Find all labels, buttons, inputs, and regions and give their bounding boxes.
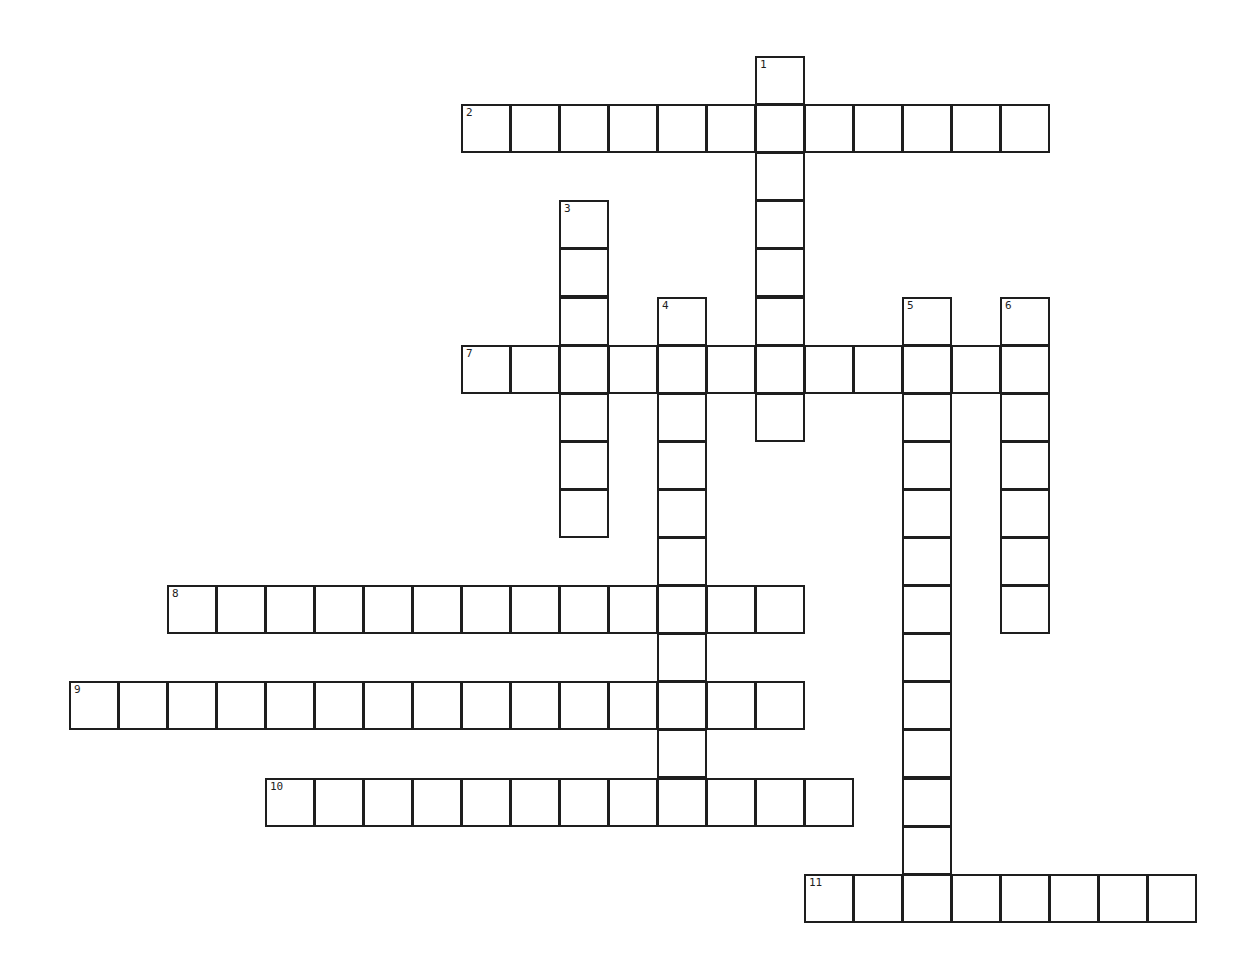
crossword-cell[interactable]: [902, 826, 952, 875]
crossword-cell[interactable]: [853, 874, 903, 923]
crossword-cell[interactable]: [951, 345, 1001, 394]
crossword-cell[interactable]: [559, 104, 609, 153]
crossword-cell[interactable]: [902, 537, 952, 586]
crossword-cell[interactable]: 9: [69, 681, 119, 730]
crossword-cell[interactable]: 8: [167, 585, 217, 634]
crossword-cell[interactable]: [657, 681, 707, 730]
crossword-cell[interactable]: [1000, 104, 1050, 153]
crossword-cell[interactable]: [216, 585, 266, 634]
crossword-cell[interactable]: [657, 778, 707, 827]
crossword-cell[interactable]: [902, 874, 952, 923]
crossword-cell[interactable]: [559, 681, 609, 730]
crossword-cell[interactable]: [559, 393, 609, 442]
crossword-cell[interactable]: [314, 681, 364, 730]
crossword-cell[interactable]: [510, 104, 560, 153]
crossword-cell[interactable]: [1000, 874, 1050, 923]
crossword-cell[interactable]: [902, 585, 952, 634]
crossword-cell[interactable]: 2: [461, 104, 511, 153]
crossword-cell[interactable]: [1000, 537, 1050, 586]
crossword-cell[interactable]: [902, 489, 952, 538]
crossword-cell[interactable]: 4: [657, 297, 707, 346]
crossword-cell[interactable]: [510, 585, 560, 634]
crossword-cell[interactable]: [314, 585, 364, 634]
crossword-cell[interactable]: [559, 585, 609, 634]
crossword-cell[interactable]: [755, 200, 805, 249]
crossword-cell[interactable]: [657, 345, 707, 394]
crossword-cell[interactable]: [510, 345, 560, 394]
crossword-cell[interactable]: [1000, 585, 1050, 634]
crossword-cell[interactable]: [216, 681, 266, 730]
crossword-cell[interactable]: [657, 729, 707, 778]
crossword-cell[interactable]: [608, 345, 658, 394]
crossword-cell[interactable]: [804, 778, 854, 827]
crossword-cell[interactable]: [755, 585, 805, 634]
crossword-cell[interactable]: [559, 441, 609, 490]
crossword-cell[interactable]: [559, 345, 609, 394]
crossword-cell[interactable]: [657, 585, 707, 634]
crossword-cell[interactable]: [755, 393, 805, 442]
crossword-cell[interactable]: [755, 345, 805, 394]
crossword-cell[interactable]: [461, 681, 511, 730]
crossword-cell[interactable]: [1049, 874, 1099, 923]
crossword-cell[interactable]: [314, 778, 364, 827]
crossword-cell[interactable]: [265, 681, 315, 730]
crossword-cell[interactable]: [363, 585, 413, 634]
crossword-cell[interactable]: 10: [265, 778, 315, 827]
crossword-cell[interactable]: 1: [755, 56, 805, 105]
crossword-cell[interactable]: [902, 345, 952, 394]
crossword-cell[interactable]: [951, 104, 1001, 153]
crossword-cell[interactable]: [706, 778, 756, 827]
crossword-cell[interactable]: [608, 104, 658, 153]
crossword-cell[interactable]: [461, 585, 511, 634]
crossword-cell[interactable]: [363, 778, 413, 827]
crossword-cell[interactable]: [363, 681, 413, 730]
crossword-cell[interactable]: [657, 393, 707, 442]
crossword-cell[interactable]: [1000, 489, 1050, 538]
crossword-cell[interactable]: [559, 489, 609, 538]
crossword-cell[interactable]: [657, 537, 707, 586]
crossword-cell[interactable]: [657, 633, 707, 682]
crossword-cell[interactable]: [1000, 393, 1050, 442]
crossword-cell[interactable]: [804, 345, 854, 394]
crossword-cell[interactable]: [657, 441, 707, 490]
crossword-cell[interactable]: [902, 633, 952, 682]
crossword-cell[interactable]: 11: [804, 874, 854, 923]
crossword-cell[interactable]: [706, 681, 756, 730]
crossword-cell[interactable]: [804, 104, 854, 153]
crossword-cell[interactable]: [412, 681, 462, 730]
crossword-cell[interactable]: [755, 104, 805, 153]
crossword-cell[interactable]: [118, 681, 168, 730]
crossword-cell[interactable]: 7: [461, 345, 511, 394]
crossword-cell[interactable]: [706, 104, 756, 153]
crossword-cell[interactable]: [412, 585, 462, 634]
crossword-cell[interactable]: [510, 778, 560, 827]
crossword-cell[interactable]: [608, 681, 658, 730]
crossword-cell[interactable]: [559, 778, 609, 827]
crossword-cell[interactable]: [412, 778, 462, 827]
crossword-cell[interactable]: [1000, 441, 1050, 490]
crossword-cell[interactable]: [853, 104, 903, 153]
crossword-cell[interactable]: [657, 104, 707, 153]
crossword-cell[interactable]: [706, 345, 756, 394]
crossword-cell[interactable]: [902, 441, 952, 490]
crossword-cell[interactable]: [902, 729, 952, 778]
crossword-cell[interactable]: [755, 778, 805, 827]
crossword-cell[interactable]: [951, 874, 1001, 923]
crossword-cell[interactable]: [559, 297, 609, 346]
crossword-cell[interactable]: [755, 681, 805, 730]
crossword-cell[interactable]: [902, 393, 952, 442]
crossword-cell[interactable]: [167, 681, 217, 730]
crossword-cell[interactable]: [265, 585, 315, 634]
crossword-cell[interactable]: [902, 778, 952, 827]
crossword-cell[interactable]: 6: [1000, 297, 1050, 346]
crossword-cell[interactable]: [853, 345, 903, 394]
crossword-cell[interactable]: [461, 778, 511, 827]
crossword-cell[interactable]: [1098, 874, 1148, 923]
crossword-cell[interactable]: [902, 104, 952, 153]
crossword-cell[interactable]: [1147, 874, 1197, 923]
crossword-cell[interactable]: [608, 585, 658, 634]
crossword-cell[interactable]: [902, 681, 952, 730]
crossword-cell[interactable]: [608, 778, 658, 827]
crossword-cell[interactable]: [755, 248, 805, 297]
crossword-cell[interactable]: 5: [902, 297, 952, 346]
